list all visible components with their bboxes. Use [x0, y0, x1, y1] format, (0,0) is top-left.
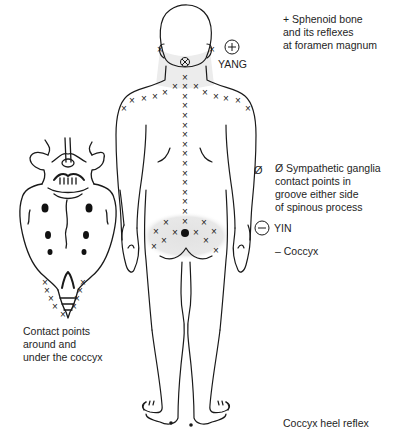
- contact-point-x: ×: [213, 245, 219, 256]
- contact-point-x: ×: [151, 241, 157, 252]
- contact-point-x: ×: [153, 226, 159, 237]
- contact-point-x: ×: [162, 87, 168, 98]
- contact-point-x: ×: [223, 93, 229, 104]
- contact-point-x: ×: [157, 44, 163, 55]
- sacrum-drawing: [20, 138, 116, 318]
- yin-symbol: [255, 221, 269, 235]
- right-scapula: [200, 148, 212, 162]
- contact-point-x: ×: [121, 103, 127, 114]
- right-hand: [233, 225, 250, 272]
- coccyx-point: [181, 229, 189, 237]
- contact-point-x: ×: [161, 235, 167, 246]
- contact-point-x: ×: [129, 95, 135, 106]
- sacrum-caption-line-3: under the coccyx: [23, 351, 102, 364]
- sphenoid-label-line-1: + Sphenoid bone: [283, 13, 363, 26]
- sympathetic-label-line-3: groove either side: [275, 188, 358, 201]
- right-thumb: [238, 245, 244, 248]
- contact-point-x: ×: [172, 81, 178, 92]
- left-thumb: [128, 245, 134, 248]
- right-leg-outer: [210, 330, 230, 413]
- contact-point-x: ×: [201, 217, 207, 228]
- left-heel-point: [169, 421, 173, 425]
- contact-point-x: ×: [235, 95, 241, 106]
- sympathetic-label-line-1: Ø Sympathetic ganglia: [275, 162, 381, 175]
- left-hand: [122, 225, 139, 272]
- right-toes: [218, 401, 229, 410]
- yang-symbol: [225, 40, 239, 54]
- contact-point-x: ×: [52, 301, 58, 312]
- contact-point-x: ×: [172, 227, 178, 238]
- sympathetic-marker-icon: Ø: [254, 164, 263, 176]
- left-toes: [143, 401, 154, 410]
- contact-point-x: ×: [141, 93, 147, 104]
- contact-point-x: ×: [193, 227, 199, 238]
- contact-point-x: ×: [202, 87, 208, 98]
- contact-point-x: ×: [245, 103, 251, 114]
- sphenoid-label-line-2: and its reflexes: [283, 26, 354, 39]
- left-hip: [144, 190, 152, 330]
- yin-label: YIN: [274, 222, 292, 235]
- contact-point-x: ×: [209, 44, 215, 55]
- left-leg-outer: [143, 330, 163, 413]
- right-leg-inner: [188, 262, 226, 424]
- contact-point-x: ×: [211, 226, 217, 237]
- contact-point-x: ×: [193, 81, 199, 92]
- contact-point-x: ×: [163, 217, 169, 228]
- heel-reflex-label: Coccyx heel reflex: [283, 417, 369, 430]
- sympathetic-label-line-4: of spinous process: [275, 201, 363, 214]
- left-leg-inner: [146, 262, 184, 424]
- coccyx-label: – Coccyx: [275, 245, 318, 258]
- contact-point-x: ×: [213, 91, 219, 102]
- contact-point-x: ×: [182, 216, 188, 227]
- right-hip: [220, 190, 228, 330]
- yang-label: YANG: [218, 58, 247, 71]
- sphenoid-label-line-3: at foramen magnum: [283, 39, 377, 52]
- sympathetic-label-line-2: contact points in: [275, 175, 351, 188]
- sacrum-caption-line-1: Contact points: [23, 325, 90, 338]
- contact-point-x: ×: [203, 235, 209, 246]
- sacrum-caption-line-2: around and: [23, 338, 76, 351]
- left-scapula: [158, 148, 170, 162]
- contact-point-x: ×: [152, 91, 158, 102]
- right-heel-point: [189, 423, 193, 427]
- anatomy-figure: ××××××××××××××××××××××××××××××××××××××××…: [0, 0, 401, 441]
